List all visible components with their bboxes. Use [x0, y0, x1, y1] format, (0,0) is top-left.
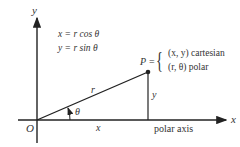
polar-label: (r, θ) polar [168, 62, 209, 73]
cartesian-label: (x, y) cartesian [168, 48, 225, 59]
x-segment-label: x [95, 122, 101, 133]
point-equals: = [149, 56, 155, 67]
y-axis-label: y [31, 4, 37, 16]
polar-coordinates-diagram: y x O x = r cos θ y = r sin θ P = { (x, … [0, 0, 240, 147]
point-label: P [139, 56, 146, 67]
brace-icon: { [156, 46, 163, 73]
x-axis-label: x [230, 113, 236, 125]
theta-arc [68, 108, 70, 120]
polar-axis-label: polar axis [154, 123, 193, 134]
y-segment-label: y [151, 89, 157, 100]
theta-label: θ [75, 106, 80, 117]
r-label: r [91, 84, 95, 95]
equation-y: y = r sin θ [57, 43, 98, 53]
origin-label: O [26, 122, 34, 134]
equation-x: x = r cos θ [57, 29, 99, 39]
radius-line [37, 72, 148, 120]
point-p [146, 70, 151, 75]
